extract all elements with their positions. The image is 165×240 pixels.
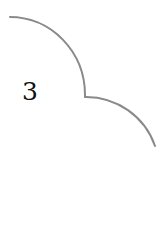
lower-arc (85, 97, 155, 146)
region-label: 3 (22, 79, 38, 104)
